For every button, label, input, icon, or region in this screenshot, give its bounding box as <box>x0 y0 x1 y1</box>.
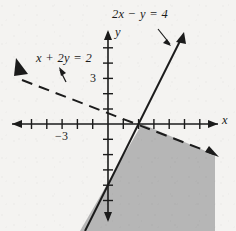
y-axis-arrow-up <box>104 30 112 40</box>
x-tick-label-minus-3: −3 <box>55 130 68 142</box>
x-axis-arrow-left <box>12 120 22 128</box>
solid-label-pointer-icon <box>158 29 171 46</box>
solution-region-fill <box>80 124 215 231</box>
equation-label-solid-line: 2x − y = 4 <box>112 8 168 21</box>
equation-label-dashed-line: x + 2y = 2 <box>36 52 92 65</box>
dashed-line-arrow-left <box>14 58 28 76</box>
y-axis-label: y <box>115 26 121 39</box>
solid-line-arrow <box>176 32 186 44</box>
dashed-line-x-plus-2y-equals-2 <box>14 58 219 157</box>
math-graph-figure: 2x − y = 4 x + 2y = 2 y x 3 −3 <box>0 0 236 231</box>
dashed-label-pointer-icon <box>59 67 66 82</box>
y-tick-label-3: 3 <box>90 72 96 84</box>
x-axis-label: x <box>222 114 228 127</box>
x-axis-arrow-right <box>208 120 218 128</box>
x-axis <box>12 119 218 129</box>
solution-region <box>80 124 215 231</box>
